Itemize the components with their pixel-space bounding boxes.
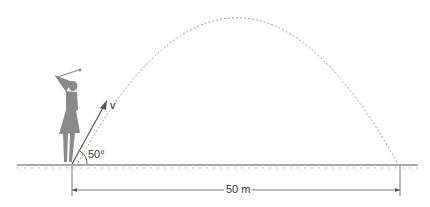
angle-label: 50° (88, 148, 105, 160)
angle-arc (80, 151, 87, 164)
projectile-diagram (0, 0, 430, 207)
trajectory-path (78, 18, 398, 164)
velocity-label: v (110, 99, 116, 111)
ground (17, 165, 418, 171)
golfer-silhouette (57, 69, 82, 163)
distance-label: 50 m (224, 183, 252, 195)
